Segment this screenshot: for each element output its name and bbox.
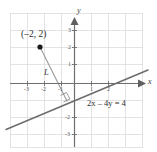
x-tick-label-2: 2 — [107, 86, 110, 92]
x-tick-label-neg2: -2 — [41, 86, 46, 92]
x-axis-label: x — [148, 78, 152, 86]
coordinate-plane-svg — [0, 0, 157, 152]
x-tick-label-neg1: -1 — [58, 86, 63, 92]
y-tick-label-neg3: -3 — [65, 131, 70, 137]
segment-length-label: L — [44, 68, 49, 77]
y-tick-label-2: 2 — [68, 44, 71, 50]
point-coordinate-label: (–2, 2) — [21, 30, 46, 40]
y-axis-label: y — [77, 7, 81, 15]
x-tick-label-neg3: -3 — [24, 86, 29, 92]
y-axis-arrow — [71, 17, 79, 25]
x-tick-label-1: 1 — [90, 86, 93, 92]
y-tick-label-3: 3 — [68, 27, 71, 33]
y-tick-label-neg2: -2 — [65, 114, 70, 120]
graph-figure: -3 -2 -1 1 2 3 2 1 -2 -3 x y (–2, 2) L 2… — [0, 0, 157, 152]
data-point-marker — [37, 44, 42, 49]
y-tick-label-1: 1 — [68, 61, 71, 67]
x-axis-arrow — [138, 80, 146, 88]
line-equation-label: 2x – 4y = 4 — [87, 99, 126, 108]
